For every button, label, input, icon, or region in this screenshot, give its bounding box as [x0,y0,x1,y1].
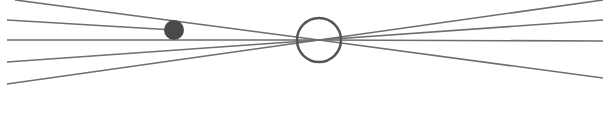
ray-lines [7,0,603,84]
ray-line [7,40,319,62]
ray-line [7,40,319,84]
ray-line [319,0,603,40]
ray-line [319,40,603,78]
ray-line [7,20,174,30]
ray-line [319,20,603,40]
ray-diagram [0,0,613,121]
ray-line [319,40,603,41]
object-dot [164,20,184,40]
